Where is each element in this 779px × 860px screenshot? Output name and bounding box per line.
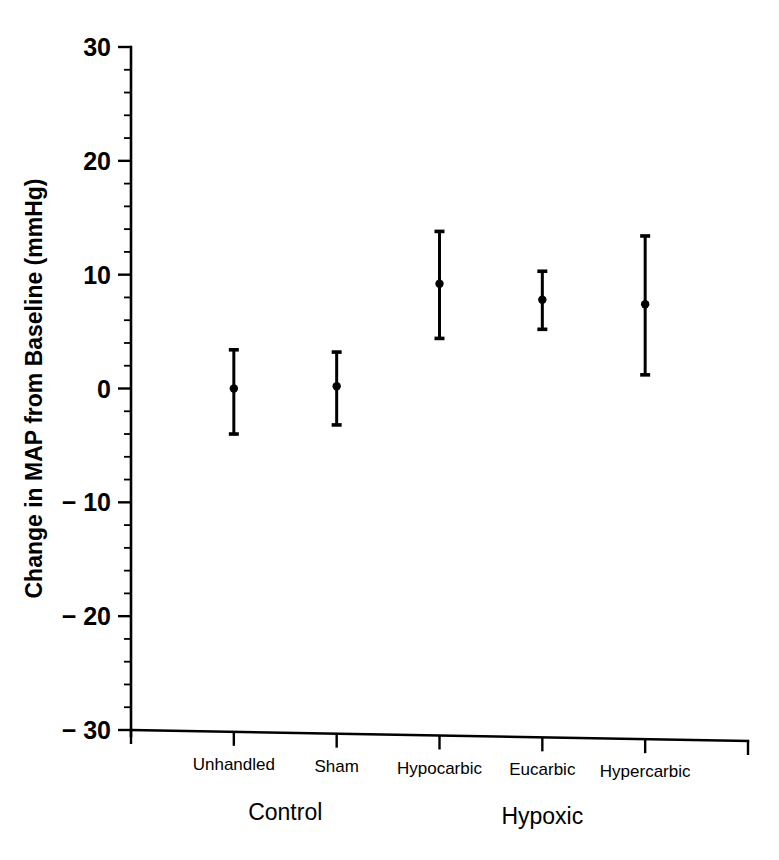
data-point-marker	[641, 300, 649, 308]
error-bar-hypocarbic	[435, 231, 445, 338]
figure-container: 3020100− 10− 20− 30 UnhandledShamHypocar…	[0, 0, 779, 860]
x-axis-category-label: Unhandled	[193, 755, 275, 774]
error-bar-hypercarbic	[640, 236, 650, 375]
x-axis-group-label: Control	[248, 799, 322, 825]
y-axis-tick-label: − 20	[62, 602, 111, 630]
axis-labels: Change in MAP from Baseline (mmHg)	[21, 178, 47, 598]
error-bar-unhandled	[229, 350, 239, 434]
data-point-marker	[230, 384, 238, 392]
x-axis-category-label: Sham	[314, 757, 358, 776]
x-axis-category-label: Hypercarbic	[600, 762, 691, 781]
error-bar-chart: 3020100− 10− 20− 30 UnhandledShamHypocar…	[0, 0, 779, 860]
x-axis-group-label: Hypoxic	[501, 803, 583, 829]
data-series-error-bars	[229, 231, 650, 434]
data-point-marker	[538, 296, 546, 304]
y-axis-tick-label: 0	[97, 375, 111, 403]
error-bar-eucarbic	[537, 271, 547, 329]
data-point-marker	[435, 280, 443, 288]
x-axis-category-label: Hypocarbic	[397, 759, 483, 778]
x-axis: UnhandledShamHypocarbicEucarbicHypercarb…	[131, 730, 748, 829]
y-axis-tick-label: 30	[83, 33, 111, 61]
y-axis: 3020100− 10− 20− 30	[62, 33, 131, 744]
y-axis-tick-label: − 10	[62, 488, 111, 516]
y-axis-tick-label: 10	[83, 261, 111, 289]
y-axis-tick-label: − 30	[62, 716, 111, 744]
data-point-marker	[332, 382, 340, 390]
error-bar-sham	[332, 352, 342, 425]
y-axis-title: Change in MAP from Baseline (mmHg)	[21, 178, 47, 598]
x-axis-category-label: Eucarbic	[509, 760, 576, 779]
y-axis-tick-label: 20	[83, 147, 111, 175]
